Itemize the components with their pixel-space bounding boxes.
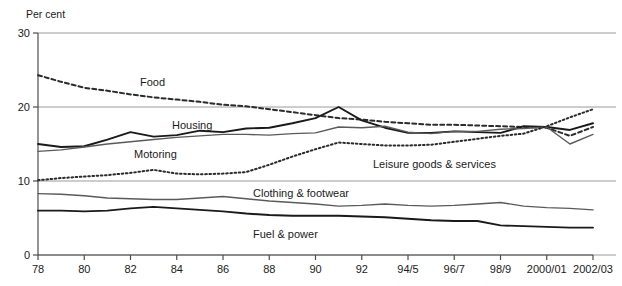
x-tick-label-98/9: 98/9 bbox=[490, 263, 511, 275]
y-tick-label-20: 20 bbox=[18, 101, 30, 113]
series-label-motoring: Motoring bbox=[134, 148, 177, 160]
x-tick-label-2000/01: 2000/01 bbox=[527, 263, 567, 275]
series-label-clothing-footwear: Clothing & footwear bbox=[253, 187, 349, 199]
x-tick-label-2002/03: 2002/03 bbox=[573, 263, 613, 275]
series-line-fuel-power bbox=[38, 207, 593, 228]
series-label-food: Food bbox=[140, 76, 165, 88]
gridlines bbox=[38, 33, 616, 255]
x-tick-label-78: 78 bbox=[32, 263, 44, 275]
x-tick-label-90: 90 bbox=[309, 263, 321, 275]
y-axis: 0102030 bbox=[18, 27, 38, 261]
x-tick-label-94/5: 94/5 bbox=[397, 263, 418, 275]
y-axis-unit-label: Per cent bbox=[26, 8, 65, 20]
series-label-housing: Housing bbox=[172, 119, 212, 131]
x-tick-label-96/7: 96/7 bbox=[444, 263, 465, 275]
x-tick-label-86: 86 bbox=[217, 263, 229, 275]
x-axis: 788082848688909294/596/798/92000/012002/… bbox=[32, 255, 613, 275]
x-tick-label-82: 82 bbox=[124, 263, 136, 275]
series-label-leisure-goods-services: Leisure goods & services bbox=[373, 158, 496, 170]
x-tick-label-80: 80 bbox=[78, 263, 90, 275]
y-tick-label-30: 30 bbox=[18, 27, 30, 39]
y-tick-label-10: 10 bbox=[18, 175, 30, 187]
x-tick-label-88: 88 bbox=[263, 263, 275, 275]
y-tick-label-0: 0 bbox=[24, 249, 30, 261]
x-tick-label-92: 92 bbox=[356, 263, 368, 275]
x-tick-label-84: 84 bbox=[171, 263, 183, 275]
series-line-food bbox=[38, 75, 593, 136]
chart-container: 0102030 788082848688909294/596/798/92000… bbox=[0, 0, 622, 286]
line-chart: 0102030 788082848688909294/596/798/92000… bbox=[0, 0, 622, 286]
series-label-fuel-power: Fuel & power bbox=[253, 228, 318, 240]
series-lines bbox=[38, 75, 593, 227]
series-line-leisure-goods-services bbox=[38, 109, 593, 180]
